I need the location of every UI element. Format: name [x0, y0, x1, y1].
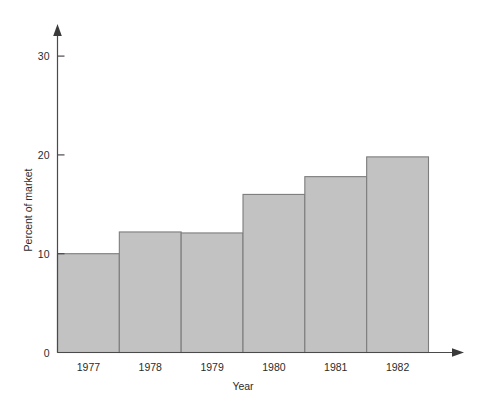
x-tick-label-1979: 1979: [200, 361, 224, 373]
x-tick-label-1980: 1980: [262, 361, 286, 373]
chart-page: 0102030 197719781979198019811982 Year Pe…: [0, 0, 492, 416]
bar-1981[interactable]: [305, 177, 367, 353]
x-tick-label-1982: 1982: [386, 361, 410, 373]
y-axis-title: Percent of market: [22, 168, 34, 251]
bar-1979[interactable]: [181, 233, 243, 353]
bar-chart: 0102030 197719781979198019811982 Year Pe…: [0, 0, 492, 416]
bar-1978[interactable]: [119, 232, 181, 353]
bar-1980[interactable]: [243, 194, 305, 352]
bar-1982[interactable]: [367, 157, 429, 353]
y-tick-label-10: 10: [38, 248, 50, 260]
x-tick-label-1977: 1977: [77, 361, 101, 373]
bar-1977[interactable]: [58, 254, 120, 353]
y-tick-label-20: 20: [38, 149, 50, 161]
y-tick-label-30: 30: [38, 50, 50, 62]
y-tick-label-0: 0: [44, 347, 50, 359]
x-tick-label-1981: 1981: [324, 361, 348, 373]
x-tick-label-1978: 1978: [139, 361, 163, 373]
x-axis-title: Year: [232, 380, 254, 392]
